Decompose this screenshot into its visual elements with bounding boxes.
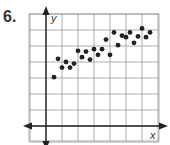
data-point [148,30,153,35]
data-point [104,37,109,42]
data-point [116,43,121,48]
data-point [136,34,141,39]
data-point [80,55,85,60]
scatter-plot: y x [0,0,170,145]
data-point [124,35,129,40]
data-point [52,75,57,80]
data-point [68,65,73,70]
data-point [92,47,97,52]
data-point [100,47,105,52]
data-points [52,26,153,80]
data-point [88,57,93,62]
x-axis-label: x [149,129,156,141]
x-axis-arrow-right-icon [159,123,168,130]
data-point [128,30,133,35]
data-point [76,48,81,53]
data-point [112,30,117,35]
data-point [64,60,69,65]
data-point [56,56,61,61]
data-point [132,40,137,45]
data-point [140,26,145,31]
data-point [96,52,101,57]
data-point [84,49,89,54]
data-point [72,61,77,66]
grid-lines [29,14,159,142]
data-point [108,52,113,57]
data-point [60,65,65,70]
y-axis-arrow-up-icon [43,6,50,15]
y-axis-arrow-down-icon [43,141,50,145]
data-point [144,35,149,40]
axes [23,6,168,145]
x-axis-arrow-left-icon [23,123,32,130]
